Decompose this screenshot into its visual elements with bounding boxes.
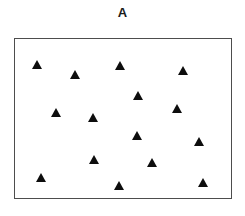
- data-point-marker: [133, 91, 143, 100]
- data-point-marker: [178, 66, 188, 75]
- data-point-marker: [198, 178, 208, 187]
- page-title: A: [0, 5, 245, 21]
- scatter-plot-figure: A: [0, 0, 245, 216]
- data-point-marker: [88, 113, 98, 122]
- data-point-marker: [132, 131, 142, 140]
- data-point-marker: [70, 70, 80, 79]
- data-point-marker: [32, 60, 42, 69]
- data-point-marker: [51, 108, 61, 117]
- data-point-marker: [194, 137, 204, 146]
- data-point-marker: [115, 61, 125, 70]
- data-point-marker: [172, 104, 182, 113]
- plot-area: [14, 38, 232, 199]
- data-point-marker: [147, 158, 157, 167]
- data-point-marker: [36, 173, 46, 182]
- data-point-marker: [114, 181, 124, 190]
- data-point-marker: [89, 155, 99, 164]
